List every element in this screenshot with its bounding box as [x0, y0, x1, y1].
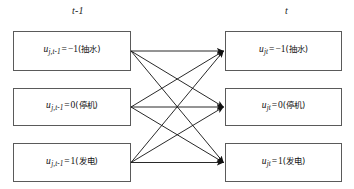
equals-sign: = — [61, 44, 68, 54]
formula-previous-pump: uj,t-1=−1(抽水) — [43, 45, 100, 56]
state-box-previous-generate[interactable]: uj,t-1=1(发电) — [13, 143, 131, 182]
state-value: −1 — [68, 44, 78, 54]
variable-u: u — [259, 44, 264, 54]
transition-arrow-pump-to-shutdown — [131, 51, 224, 107]
subscript-time-index: t-1 — [55, 104, 63, 112]
formula-previous-generate: uj,t-1=1(发电) — [46, 157, 98, 168]
subscript-time-index: t-1 — [55, 160, 63, 168]
formula-current-generate: ujt=1(发电) — [262, 157, 306, 168]
mode-label-shutdown: (停机) — [75, 100, 98, 110]
state-transition-diagram: t-1 t uj,t-1=−1(抽水) uj,t-1=0(停机) uj,t-1=… — [0, 0, 354, 189]
state-box-previous-shutdown[interactable]: uj,t-1=0(停机) — [13, 88, 131, 126]
transition-arrow-shutdown-to-pump — [131, 51, 224, 107]
column-header-previous-period: t-1 — [72, 5, 84, 16]
transition-arrow-pump-to-generate — [131, 51, 224, 163]
state-value: −1 — [275, 44, 285, 54]
transition-arrow-shutdown-to-generate — [131, 107, 224, 163]
state-box-current-shutdown[interactable]: ujt=0(停机) — [225, 88, 342, 126]
formula-current-shutdown: ujt=0(停机) — [262, 101, 306, 112]
state-box-previous-pump[interactable]: uj,t-1=−1(抽水) — [13, 31, 131, 71]
transition-arrow-generate-to-pump — [131, 51, 224, 163]
equals-sign: = — [63, 156, 70, 166]
mode-label-pump: (抽水) — [78, 44, 101, 54]
mode-label-generate: (发电) — [75, 156, 98, 166]
mode-label-pump: (抽水) — [285, 44, 308, 54]
transition-arrow-generate-to-shutdown — [131, 107, 224, 163]
equals-sign: = — [271, 156, 278, 166]
equals-sign: = — [271, 100, 278, 110]
subscript-time-index: t-1 — [52, 48, 60, 56]
column-header-current-period: t — [285, 5, 288, 16]
mode-label-generate: (发电) — [283, 156, 306, 166]
formula-previous-shutdown: uj,t-1=0(停机) — [46, 101, 98, 112]
formula-current-pump: ujt=−1(抽水) — [259, 45, 308, 56]
mode-label-shutdown: (停机) — [283, 100, 306, 110]
state-box-current-pump[interactable]: ujt=−1(抽水) — [225, 31, 342, 71]
equals-sign: = — [63, 100, 70, 110]
state-box-current-generate[interactable]: ujt=1(发电) — [225, 143, 342, 182]
